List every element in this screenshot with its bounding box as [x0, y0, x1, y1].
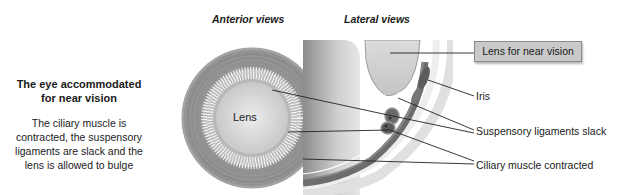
callout-suspensory-ligaments: Suspensory ligaments slack: [476, 125, 606, 137]
callout-lens-for-near-vision: Lens for near vision: [474, 41, 582, 62]
title-line-2: for near vision: [0, 91, 158, 105]
side-panel-description: The ciliary muscle is contracted, the su…: [0, 116, 158, 172]
desc-line-3: ligaments are slack and the: [0, 144, 158, 158]
lateral-eye-view: [303, 40, 452, 195]
title-line-1: The eye accommodated: [0, 77, 158, 91]
lens-label: Lens: [233, 111, 257, 123]
lateral-views-heading: Lateral views: [344, 13, 410, 25]
desc-line-4: lens is allowed to bulge: [0, 158, 158, 172]
callout-ciliary-muscle: Ciliary muscle contracted: [476, 159, 593, 171]
anterior-views-heading: Anterior views: [212, 13, 284, 25]
side-panel-title: The eye accommodated for near vision: [0, 77, 158, 105]
desc-line-2: contracted, the suspensory: [0, 130, 158, 144]
desc-line-1: The ciliary muscle is: [0, 116, 158, 130]
callout-iris: Iris: [476, 90, 490, 102]
